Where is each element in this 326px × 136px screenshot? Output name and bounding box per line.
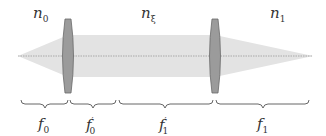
medium-nxi-label: nξ <box>141 6 156 24</box>
lens-1 <box>210 19 221 93</box>
focal-f1-label: f1 <box>257 117 268 135</box>
lens-0 <box>63 19 74 93</box>
brace-f0 <box>21 100 68 108</box>
brace-f1-prime <box>119 100 213 108</box>
brace-f0-prime <box>70 100 116 108</box>
braces <box>21 100 309 108</box>
focal-f0-label: f0 <box>38 117 49 135</box>
focal-f0-prime-label: f′0 <box>86 117 95 136</box>
medium-n1-label: n1 <box>270 6 285 24</box>
brace-f1 <box>216 100 309 108</box>
focal-f1-prime-label: f′1 <box>159 117 168 136</box>
medium-n0-label: n0 <box>33 6 48 24</box>
